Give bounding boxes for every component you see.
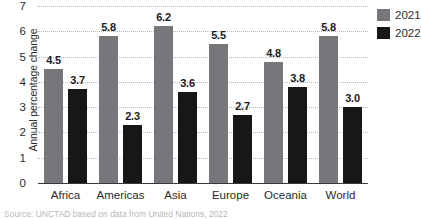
bar-europe-2021[interactable]	[209, 44, 228, 183]
source-note: Source: UNCTAD based on data from United…	[4, 209, 228, 219]
bar-africa-2022[interactable]	[68, 89, 87, 183]
y-axis-tick-label: 7	[0, 0, 26, 12]
axis-baseline	[38, 183, 368, 184]
y-axis-tick-label: 0	[0, 177, 26, 189]
y-axis-tick-label: 3	[0, 101, 26, 113]
bars-layer: 4.53.75.82.36.23.65.52.74.83.85.83.0	[38, 6, 368, 183]
bar-value-label-oceania-2022: 3.8	[282, 72, 313, 84]
bar-asia-2021[interactable]	[154, 26, 173, 183]
x-axis-label-world: World	[301, 189, 381, 201]
bar-europe-2022[interactable]	[233, 115, 252, 183]
bar-value-label-asia-2021: 6.2	[148, 11, 179, 23]
legend-item-2021[interactable]: 2021	[377, 9, 421, 21]
bar-value-label-americas-2021: 5.8	[93, 21, 124, 33]
plot-area: 01234567 4.53.75.82.36.23.65.52.74.83.85…	[38, 6, 368, 183]
y-axis-tick-label: 6	[0, 25, 26, 37]
bar-value-label-world-2022: 3.0	[337, 92, 368, 104]
y-axis-tick-label: 4	[0, 76, 26, 88]
legend-label-2022: 2022	[395, 27, 421, 39]
bar-value-label-americas-2022: 2.3	[117, 110, 148, 122]
bar-value-label-asia-2022: 3.6	[172, 77, 203, 89]
bar-world-2021[interactable]	[319, 36, 338, 183]
bar-americas-2021[interactable]	[99, 36, 118, 183]
bar-oceania-2022[interactable]	[288, 87, 307, 183]
bar-value-label-europe-2021: 5.5	[203, 29, 234, 41]
bar-africa-2021[interactable]	[44, 69, 63, 183]
y-axis-tick-label: 5	[0, 51, 26, 63]
y-axis-tick-label: 1	[0, 152, 26, 164]
bar-value-label-world-2021: 5.8	[313, 21, 344, 33]
bar-value-label-africa-2021: 4.5	[38, 54, 69, 66]
bar-value-label-oceania-2021: 4.8	[258, 47, 289, 59]
legend-label-2021: 2021	[395, 9, 421, 21]
bar-asia-2022[interactable]	[178, 92, 197, 183]
bar-value-label-europe-2022: 2.7	[227, 100, 258, 112]
chart-legend: 20212022	[377, 9, 421, 45]
series-2022-swatch	[377, 27, 390, 39]
y-axis-tick-label: 2	[0, 126, 26, 138]
bar-oceania-2021[interactable]	[264, 62, 283, 183]
series-2021-swatch	[377, 9, 390, 21]
bar-value-label-africa-2022: 3.7	[62, 74, 93, 86]
legend-item-2022[interactable]: 2022	[377, 27, 421, 39]
bar-world-2022[interactable]	[343, 107, 362, 183]
bar-americas-2022[interactable]	[123, 125, 142, 183]
